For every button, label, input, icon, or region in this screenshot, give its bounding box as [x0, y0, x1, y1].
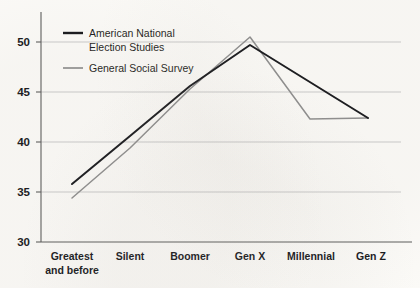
- y-tick-marks: [36, 42, 41, 242]
- x-label-boomer: Boomer: [170, 250, 210, 262]
- legend-label-gss-line1: General Social Survey: [89, 62, 194, 74]
- x-label-gen-x: Gen X: [235, 250, 265, 262]
- x-label-greatest-line1: Greatest: [51, 250, 94, 262]
- chart-legend: American National Election Studies Gener…: [63, 27, 194, 74]
- legend-item-gss: General Social Survey: [63, 62, 194, 74]
- y-tick-label-35: 35: [17, 186, 30, 198]
- x-category-labels: Greatest and before Silent Boomer Gen X …: [45, 250, 386, 276]
- line-chart: 50 45 40 35 30 Greatest and before Silen…: [0, 0, 420, 288]
- y-tick-label-45: 45: [17, 86, 30, 98]
- y-tick-label-50: 50: [17, 36, 30, 48]
- chart-svg: 50 45 40 35 30 Greatest and before Silen…: [0, 0, 420, 288]
- x-label-greatest-line2: and before: [45, 264, 99, 276]
- legend-label-anes-line2: Election Studies: [89, 41, 164, 53]
- y-tick-label-30: 30: [17, 236, 30, 248]
- legend-item-anes: American National Election Studies: [63, 27, 175, 53]
- y-tick-labels: 50 45 40 35 30: [17, 36, 30, 248]
- legend-label-anes-line1: American National: [89, 27, 175, 39]
- y-tick-label-40: 40: [17, 136, 30, 148]
- x-label-gen-z: Gen Z: [356, 250, 386, 262]
- x-label-silent: Silent: [116, 250, 145, 262]
- x-label-millennial: Millennial: [287, 250, 335, 262]
